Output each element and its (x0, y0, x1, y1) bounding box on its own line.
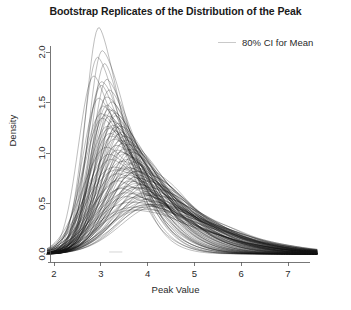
x-tick-label: 4 (145, 268, 150, 279)
y-tick-label: 0.5 (36, 197, 47, 210)
x-tick-label: 6 (239, 268, 244, 279)
bootstrap-density-chart: Bootstrap Replicates of the Distribution… (0, 0, 351, 310)
x-tick-label: 3 (98, 268, 103, 279)
y-axis-label: Density (7, 127, 18, 147)
x-tick-label: 7 (285, 268, 290, 279)
x-axis-label: Peak Value (0, 284, 351, 295)
plot-canvas: 2345670.00.51.01.52.0 (0, 0, 351, 310)
x-tick-label: 5 (192, 268, 197, 279)
bootstrap-curves (47, 28, 317, 254)
y-tick-label: 0.0 (36, 247, 47, 260)
bootstrap-replicate-curve (47, 64, 317, 254)
y-tick-label: 1.0 (36, 146, 47, 159)
y-tick-label: 2.0 (36, 45, 47, 58)
x-tick-label: 2 (51, 268, 56, 279)
y-tick-label: 1.5 (36, 96, 47, 109)
